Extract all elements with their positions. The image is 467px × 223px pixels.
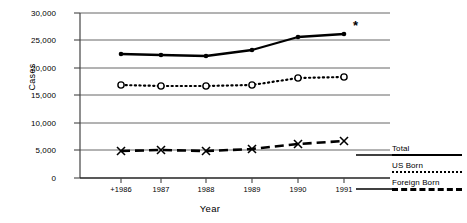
chart-figure: Cases Year 30,000 25,000 20,000 15,000 1…	[0, 0, 467, 223]
legend-label-total: Total	[392, 144, 466, 153]
legend-swatch-dashed-line	[392, 188, 462, 191]
y-axis-ticks	[74, 13, 80, 178]
series-us-born	[118, 74, 347, 89]
legend-leader-lines	[356, 155, 392, 189]
legend-label-us-born: US Born	[392, 161, 466, 170]
legend-item-us-born: US Born	[392, 161, 466, 178]
chart-legend: Total US Born Foreign Born	[392, 144, 466, 195]
legend-item-foreign-born: Foreign Born	[392, 178, 466, 195]
asterisk-annotation: *	[353, 18, 359, 33]
series-foreign-born	[117, 137, 348, 155]
legend-label-foreign-born: Foreign Born	[392, 178, 466, 187]
legend-swatch-dotted-line	[392, 171, 462, 173]
x-axis-ticks	[121, 178, 344, 183]
legend-swatch-solid-line	[392, 154, 462, 156]
legend-item-total: Total	[392, 144, 466, 161]
series-total	[119, 32, 347, 59]
